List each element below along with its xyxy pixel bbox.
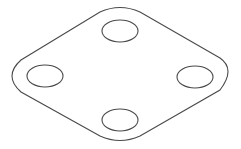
plate-drawing bbox=[0, 0, 241, 149]
hole-right bbox=[177, 66, 213, 88]
hole-top bbox=[102, 20, 138, 42]
hole-left bbox=[27, 65, 63, 87]
plate-outline bbox=[12, 8, 228, 141]
hole-bottom bbox=[102, 109, 138, 131]
